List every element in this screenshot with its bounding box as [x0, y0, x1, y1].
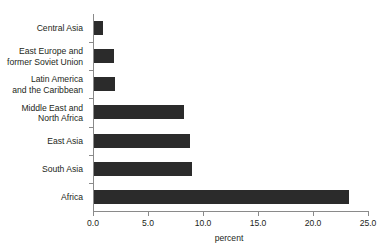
x-axis-tick-label: 0.0	[73, 218, 113, 229]
x-axis-tick	[148, 211, 149, 216]
y-axis-tick	[89, 127, 93, 128]
x-axis-tick-label: 10.0	[183, 218, 223, 229]
bar	[93, 134, 190, 148]
bar	[93, 105, 184, 119]
bar-row	[93, 155, 368, 183]
bar	[93, 49, 114, 63]
x-axis-tick	[368, 211, 369, 216]
bar-row	[93, 42, 368, 70]
bar-row	[93, 98, 368, 126]
x-axis-title-label: percent	[215, 233, 244, 243]
bar-row	[93, 14, 368, 42]
bars-container	[93, 14, 368, 211]
x-axis-tick-label: 20.0	[293, 218, 333, 229]
y-axis-line	[93, 14, 94, 211]
bar	[93, 77, 115, 91]
y-axis-label: East Asia	[0, 135, 83, 146]
y-axis-tick	[89, 183, 93, 184]
y-axis-label: Central Asia	[0, 23, 83, 34]
x-axis-tick	[203, 211, 204, 216]
x-axis-tick-label: 25.0	[348, 218, 382, 229]
x-axis-tick-label: 5.0	[128, 218, 168, 229]
bar-row	[93, 70, 368, 98]
x-axis-line	[93, 211, 368, 212]
y-axis-tick	[89, 98, 93, 99]
bar	[93, 21, 103, 35]
y-axis-tick	[89, 155, 93, 156]
x-axis-tick-label: 15.0	[238, 218, 278, 229]
y-axis-tick	[89, 42, 93, 43]
y-axis-label: Latin America and the Caribbean	[0, 74, 83, 95]
bar-chart: Central AsiaEast Europe and former Sovie…	[0, 0, 382, 252]
y-axis-label: Middle East and North Africa	[0, 102, 83, 123]
bar-row	[93, 183, 368, 211]
bar	[93, 190, 349, 204]
y-axis-category-labels: Central AsiaEast Europe and former Sovie…	[0, 14, 89, 211]
x-axis-tick	[93, 211, 94, 216]
y-axis-tick	[89, 70, 93, 71]
bar	[93, 162, 192, 176]
y-axis-label: South Asia	[0, 164, 83, 175]
y-axis-label: Africa	[0, 192, 83, 203]
x-axis-title: percent	[0, 233, 382, 243]
bar-row	[93, 127, 368, 155]
x-axis-tick	[258, 211, 259, 216]
x-axis-tick	[313, 211, 314, 216]
y-axis-label: East Europe and former Soviet Union	[0, 46, 83, 67]
